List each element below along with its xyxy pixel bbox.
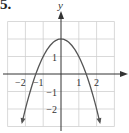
- x-axis-arrow-icon: [120, 71, 128, 77]
- curve-left-arrow-icon: [21, 118, 26, 124]
- x-tick-label: −2: [15, 77, 26, 88]
- x-tick-label: 1: [76, 77, 81, 88]
- y-axis-label: y: [57, 0, 63, 11]
- axes: y: [3, 0, 128, 131]
- y-tick-label: −2: [46, 104, 57, 115]
- y-tick-label: −1: [46, 87, 57, 98]
- curve-right-arrow-icon: [96, 118, 101, 124]
- x-tick-label: 2: [94, 77, 99, 88]
- y-tick-label: 1: [52, 52, 57, 63]
- tick-labels: −2−1121−1−2: [15, 52, 99, 116]
- parabola-graph: y −2−1121−1−2: [0, 0, 129, 133]
- y-axis-arrow-icon: [58, 11, 64, 19]
